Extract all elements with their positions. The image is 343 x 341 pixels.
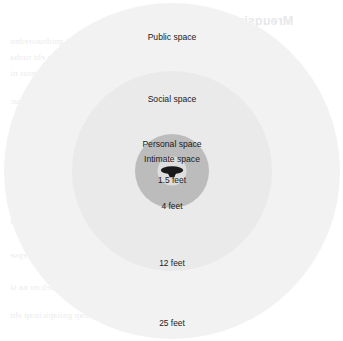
label-social-space: Social space [148,95,197,104]
distance-intimate-space: 1.5 feet [158,176,186,184]
distance-personal-space: 4 feet [162,202,183,210]
distance-social-space: 12 feet [159,259,185,267]
label-intimate-space: Intimate space [144,155,200,164]
proxemics-diagram: Mreuqsiro nsfeevirg noitacinummoc labrev… [0,0,343,341]
distance-public-space: 25 feet [159,319,185,327]
label-personal-space: Personal space [142,140,201,149]
label-public-space: Public space [148,33,197,42]
